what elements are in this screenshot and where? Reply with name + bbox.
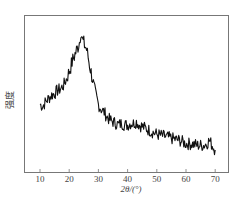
x-tick-label: 70 (211, 174, 221, 184)
xrd-chart: 10203040506070 2θ/(°) 强度 (0, 0, 238, 209)
y-axis-label: 强度 (4, 91, 15, 109)
x-axis-tick-labels: 10203040506070 (36, 174, 221, 184)
x-tick-label: 50 (152, 174, 162, 184)
x-axis-ticks (40, 169, 215, 172)
x-tick-label: 60 (182, 174, 192, 184)
x-tick-label: 20 (65, 174, 75, 184)
x-tick-label: 10 (36, 174, 46, 184)
x-tick-label: 30 (94, 174, 104, 184)
x-axis-label: 2θ/(°) (120, 184, 141, 194)
xrd-line-series (40, 36, 215, 155)
x-tick-label: 40 (123, 174, 133, 184)
